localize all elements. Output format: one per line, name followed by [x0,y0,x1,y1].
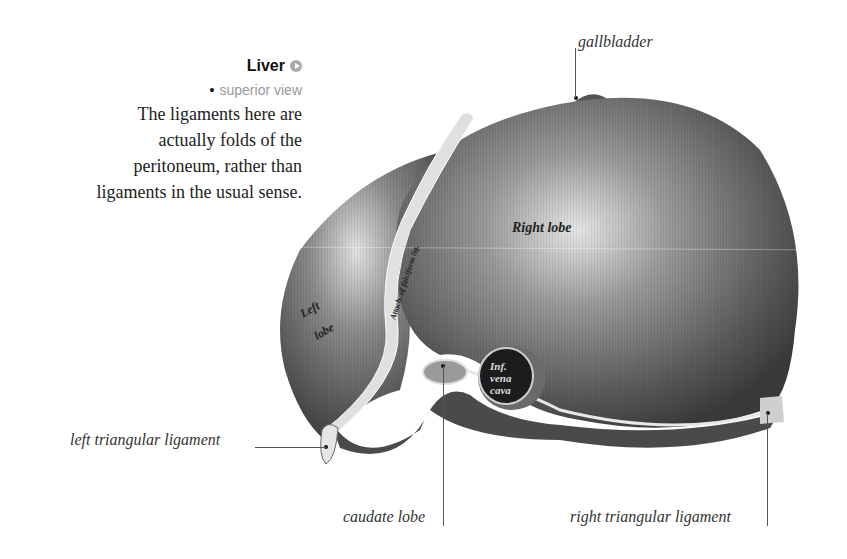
description-line: The ligaments here are [0,101,302,127]
right-lobe-label: Right lobe [511,220,572,235]
right-triangular-ligament-shape [760,396,784,424]
caudate-lobe-label: caudate lobe [343,508,425,526]
left-triangular-leader-line [255,447,326,448]
caudate-leader-line [443,366,444,526]
description-line: ligaments in the usual sense. [0,179,302,205]
left-triangular-ligament-shape [321,424,338,464]
play-circle-icon[interactable] [290,60,302,72]
bullet: • [210,82,215,98]
figure-description: The ligaments here are actually folds of… [0,101,302,205]
figure-title-text: Liver [247,57,285,74]
caudate-lobe-shape [423,360,467,384]
description-line: peritoneum, rather than [0,153,302,179]
left-triangular-ligament-label: left triangular ligament [70,431,220,449]
gallbladder-leader-line [575,48,576,98]
right-triangular-leader-line [767,413,768,526]
ivc-label-3: cava [490,384,511,396]
right-triangular-ligament-label: right triangular ligament [570,508,731,526]
gallbladder-label: gallbladder [578,33,653,51]
description-line: actually folds of the [0,127,302,153]
figure-title: Liver [0,57,302,75]
figure-subtitle: •superior view [0,82,302,98]
ivc-label-1: Inf. [489,360,507,372]
subtitle-text: superior view [220,82,302,98]
ivc-label-2: vena [490,372,512,384]
